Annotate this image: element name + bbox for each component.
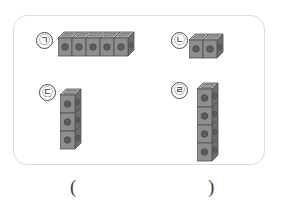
cube-row-a (58, 28, 144, 62)
item-label-d: ㉣ (171, 82, 188, 99)
item-label-a: ㉠ (36, 32, 53, 49)
answer-blank[interactable]: ( ) (70, 176, 220, 206)
item-label-c: ㉢ (39, 84, 56, 101)
answer-close-paren: ) (208, 176, 214, 198)
item-label-b: ㉡ (171, 32, 188, 49)
cube-stack-d (197, 82, 227, 166)
cube-stack-c (60, 88, 90, 154)
answer-open-paren: ( (70, 176, 76, 198)
worksheet-root: ㉠ (0, 0, 281, 219)
cube-row-b (189, 30, 233, 64)
